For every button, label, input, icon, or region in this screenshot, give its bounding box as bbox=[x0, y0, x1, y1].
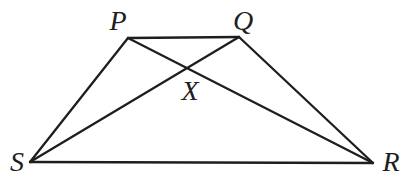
geometry-figure: PQRSX bbox=[0, 0, 407, 192]
segment-SR bbox=[30, 162, 373, 163]
vertex-label-Q: Q bbox=[233, 5, 253, 36]
vertex-label-X: X bbox=[180, 75, 199, 106]
segment-PS bbox=[30, 38, 128, 162]
vertex-label-P: P bbox=[108, 5, 126, 36]
segment-PR bbox=[128, 38, 373, 163]
vertex-label-R: R bbox=[381, 146, 399, 177]
vertex-label-S: S bbox=[10, 146, 24, 177]
segment-PQ bbox=[128, 37, 239, 38]
segment-QR bbox=[239, 37, 373, 163]
segment-SQ bbox=[30, 37, 239, 162]
trapezoid-diagram: PQRSX bbox=[0, 0, 407, 192]
